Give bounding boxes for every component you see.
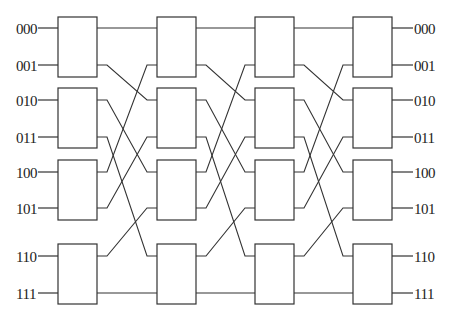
switch-box xyxy=(157,88,196,148)
output-label: 101 xyxy=(414,202,435,217)
output-label: 100 xyxy=(414,166,435,181)
interconnect-wire xyxy=(97,65,157,100)
output-label: 011 xyxy=(414,131,434,146)
input-label: 001 xyxy=(16,59,37,74)
switch-box xyxy=(157,17,196,77)
switch-box xyxy=(255,17,294,77)
switch-box xyxy=(353,88,392,148)
switch-box xyxy=(58,160,97,220)
switch-box xyxy=(255,244,294,304)
input-label: 110 xyxy=(16,250,36,265)
input-label: 010 xyxy=(16,94,37,109)
switch-box xyxy=(58,17,97,77)
switch-box xyxy=(58,88,97,148)
interconnect-wire xyxy=(196,100,255,172)
output-label: 110 xyxy=(414,250,434,265)
switch-box xyxy=(255,88,294,148)
switch-box xyxy=(157,244,196,304)
output-label: 010 xyxy=(414,94,435,109)
switch-box xyxy=(353,244,392,304)
interconnect-wire xyxy=(294,65,353,100)
switch-box xyxy=(157,160,196,220)
switch-box xyxy=(353,160,392,220)
input-label: 101 xyxy=(16,202,37,217)
output-label: 001 xyxy=(414,59,435,74)
switch-box xyxy=(255,160,294,220)
input-label: 000 xyxy=(16,22,37,37)
switch-box xyxy=(58,244,97,304)
interconnect-wire xyxy=(196,208,255,256)
interconnect-wire xyxy=(196,65,255,100)
switching-network-diagram xyxy=(0,0,453,323)
interconnect-wire xyxy=(97,100,157,172)
interconnect-wire xyxy=(294,208,353,256)
interconnect-wire xyxy=(294,65,353,172)
output-label: 111 xyxy=(414,287,434,302)
output-label: 000 xyxy=(414,22,435,37)
input-label: 011 xyxy=(16,131,36,146)
interconnect-wire xyxy=(294,100,353,172)
interconnect-wire xyxy=(196,137,255,256)
input-label: 111 xyxy=(16,287,36,302)
interconnect-wire xyxy=(196,65,255,172)
interconnect-wire xyxy=(97,137,157,256)
input-label: 100 xyxy=(16,166,37,181)
interconnect-wire xyxy=(97,208,157,256)
interconnect-wire xyxy=(97,65,157,172)
interconnect-wire xyxy=(294,137,353,256)
switch-box xyxy=(353,17,392,77)
